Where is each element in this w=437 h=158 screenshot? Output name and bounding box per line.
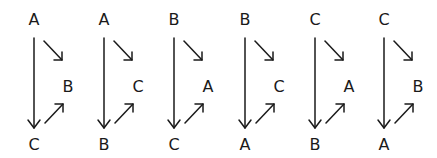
arrows: [350, 0, 420, 158]
down-arrow-icon: [239, 38, 251, 128]
triangle-diagram: B C A: [211, 0, 281, 158]
up-right-arrow-icon: [326, 104, 344, 123]
triangle-diagram: C A B: [281, 0, 351, 158]
down-right-arrow-icon: [184, 41, 202, 60]
arrows: [0, 0, 70, 158]
triangle-diagram: A C B: [70, 0, 140, 158]
arrows: [70, 0, 140, 158]
arrows: [211, 0, 281, 158]
up-right-arrow-icon: [115, 104, 133, 123]
down-arrow-icon: [28, 38, 40, 128]
down-arrow-icon: [309, 38, 321, 128]
down-arrow-icon: [168, 38, 180, 128]
down-right-arrow-icon: [394, 41, 412, 60]
down-right-arrow-icon: [114, 41, 132, 60]
down-right-arrow-icon: [325, 41, 343, 60]
down-right-arrow-icon: [44, 41, 62, 60]
up-right-arrow-icon: [45, 104, 63, 123]
up-right-arrow-icon: [395, 104, 413, 123]
arrows: [281, 0, 351, 158]
up-right-arrow-icon: [256, 104, 274, 123]
triangle-diagram: C B A: [350, 0, 420, 158]
arrows: [140, 0, 210, 158]
down-right-arrow-icon: [255, 41, 273, 60]
up-right-arrow-icon: [185, 104, 203, 123]
triangle-diagram: B A C: [140, 0, 210, 158]
down-arrow-icon: [98, 38, 110, 128]
triangle-diagram: A B C: [0, 0, 70, 158]
down-arrow-icon: [378, 38, 390, 128]
